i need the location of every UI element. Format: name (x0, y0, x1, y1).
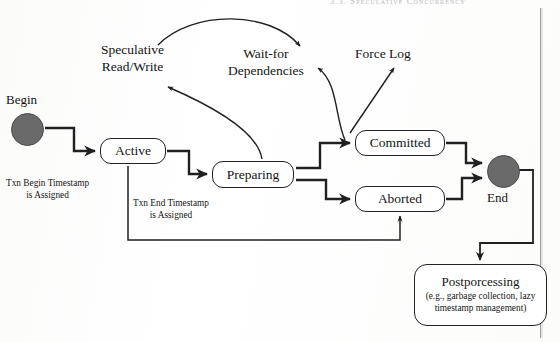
state-preparing: Preparing (212, 161, 294, 188)
annotation-begin-timestamp-line2: is Assigned (6, 190, 89, 202)
edge-committed-to-forcelog (350, 68, 394, 133)
begin-node-label: Begin (6, 92, 37, 108)
edge-aborted-to-end (446, 178, 482, 199)
state-committed: Committed (355, 130, 445, 156)
end-node (487, 155, 520, 188)
edge-begin-to-active (45, 128, 95, 151)
edge-speculative-to-waitfor (158, 19, 300, 46)
edge-committed-to-end (446, 143, 482, 163)
annotation-waitfor-line2: Dependencies (228, 63, 304, 80)
annotation-end-timestamp-line1: Txn End Timestamp (133, 198, 209, 210)
edge-committed-to-waitfor (318, 68, 345, 140)
annotation-end-timestamp: Txn End Timestamp is Assigned (133, 198, 209, 221)
edge-preparing-to-aborted (296, 180, 350, 199)
state-aborted: Aborted (355, 186, 445, 212)
end-node-label: End (487, 190, 508, 206)
annotation-speculative-line1: Speculative (101, 42, 164, 59)
begin-node (11, 113, 44, 146)
state-committed-label: Committed (370, 135, 431, 151)
edge-preparing-to-committed (296, 143, 350, 168)
annotation-speculative-line2: Read/Write (101, 59, 164, 76)
annotation-force-log: Force Log (355, 46, 411, 63)
state-postprocessing-label: Postporcessing (442, 275, 520, 290)
state-aborted-label: Aborted (378, 191, 422, 207)
annotation-end-timestamp-line2: is Assigned (133, 210, 209, 222)
diagram-page: 3.3. Speculative Concurrency (0, 0, 560, 342)
annotation-wait-for-dependencies: Wait-for Dependencies (228, 46, 304, 79)
annotation-waitfor-line1: Wait-for (228, 46, 304, 63)
state-postprocessing-sublabel-line2: timestamp management) (435, 303, 527, 315)
annotation-begin-timestamp-line1: Txn Begin Timestamp (6, 178, 89, 190)
state-postprocessing-sublabel-line1: (e.g., garbage collection, lazy (426, 291, 536, 303)
edge-preparing-to-speculative (168, 87, 262, 159)
annotation-forcelog-line1: Force Log (355, 46, 411, 63)
annotation-begin-timestamp: Txn Begin Timestamp is Assigned (6, 178, 89, 201)
state-active: Active (100, 138, 166, 164)
state-active-label: Active (115, 143, 151, 159)
state-preparing-label: Preparing (227, 167, 279, 183)
annotation-speculative-read-write: Speculative Read/Write (101, 42, 164, 75)
state-postprocessing: Postporcessing (e.g., garbage collection… (414, 264, 547, 326)
edge-active-to-preparing (167, 151, 207, 174)
